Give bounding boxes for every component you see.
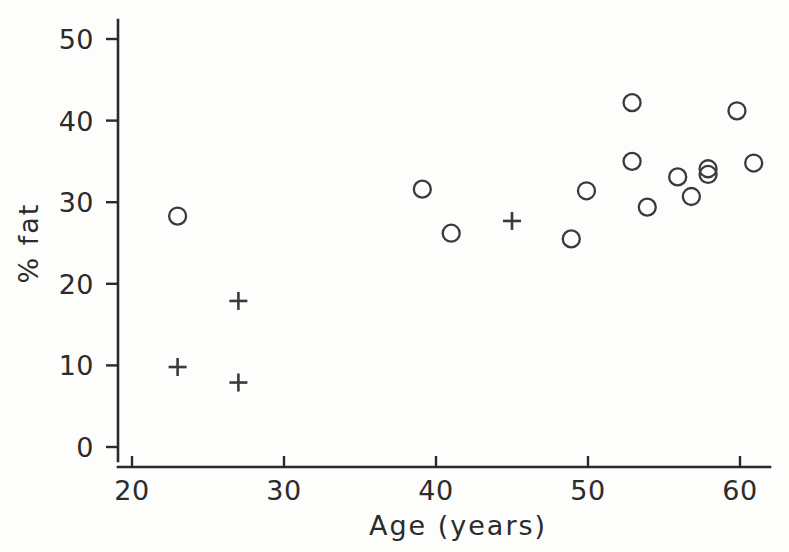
data-point-circle: [443, 225, 460, 242]
data-point-circle: [683, 188, 700, 205]
x-tick-label-20: 20: [114, 475, 149, 506]
data-point-circle: [745, 155, 762, 172]
scatter-plot-figure: 203040506001020304050Age (years)% fat: [0, 0, 789, 552]
data-point-circle: [639, 199, 656, 216]
x-tick-label-30: 30: [266, 475, 301, 506]
y-axis-title: % fat: [13, 203, 44, 284]
data-point-plus: [229, 292, 247, 310]
y-tick-label-50: 50: [59, 24, 94, 55]
data-point-circle: [728, 102, 745, 119]
y-tick-label-30: 30: [59, 187, 94, 218]
data-point-circle: [169, 208, 186, 225]
x-axis-title: Age (years): [369, 510, 547, 541]
data-point-circle: [624, 94, 641, 111]
data-point-circle: [414, 181, 431, 198]
data-point-circle: [563, 230, 580, 247]
y-tick-label-0: 0: [76, 432, 94, 463]
data-point-circle: [624, 153, 641, 170]
x-tick-label-60: 60: [722, 475, 757, 506]
y-tick-label-10: 10: [59, 350, 94, 381]
data-point-plus: [169, 358, 187, 376]
y-tick-label-40: 40: [59, 106, 94, 137]
x-tick-label-40: 40: [418, 475, 453, 506]
plot-canvas: 203040506001020304050Age (years)% fat: [0, 0, 789, 552]
data-point-plus: [503, 212, 521, 230]
y-tick-label-20: 20: [59, 269, 94, 300]
x-tick-label-50: 50: [570, 475, 605, 506]
data-point-circle: [669, 168, 686, 185]
data-point-circle: [578, 182, 595, 199]
data-point-plus: [229, 374, 247, 392]
